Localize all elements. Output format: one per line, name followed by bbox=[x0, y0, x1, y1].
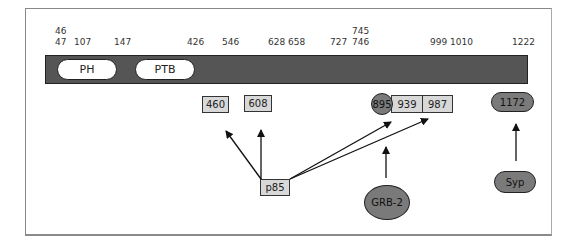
arrow-p85-to-895 bbox=[290, 122, 391, 179]
p85-box: p85 bbox=[260, 179, 290, 196]
arrow-p85-to-460 bbox=[226, 131, 261, 179]
grb2-ellipse: GRB-2 bbox=[364, 185, 410, 220]
syp-pill: Syp bbox=[494, 171, 536, 193]
arrows bbox=[0, 0, 571, 247]
arrow-p85-to-987 bbox=[290, 119, 428, 179]
